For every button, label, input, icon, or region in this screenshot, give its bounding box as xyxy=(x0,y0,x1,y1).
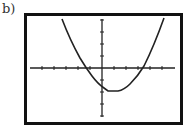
parabola-curve xyxy=(62,18,164,91)
graph xyxy=(0,0,184,131)
